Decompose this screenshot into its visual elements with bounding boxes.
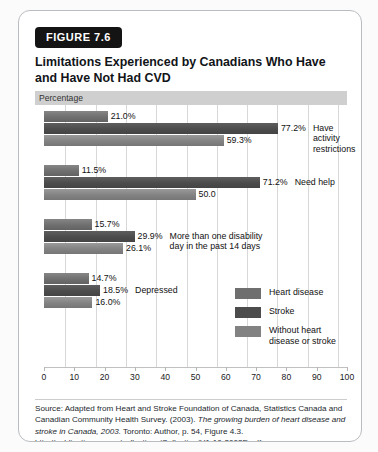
bar-value-label: 29.9% [138,231,163,242]
legend-swatch-stroke [235,307,261,318]
bar-value-label: 16.0% [95,297,120,308]
bar-2-1 [44,189,196,200]
bar-value-label: 15.7% [95,219,120,230]
legend-item: Stroke [235,306,347,318]
x-tick-label: 10 [70,372,80,382]
bar-0-0 [44,111,108,122]
source-divider [35,399,347,400]
bar-2-2 [44,243,123,254]
bar-1-2 [44,231,135,242]
x-tick-label: 100 [340,372,354,382]
x-tick-label: 50 [191,372,201,382]
bar-value-label: 26.1% [126,243,151,254]
axis-header-label: Percentage [39,91,83,105]
x-tick-label: 60 [221,372,231,382]
category-label: More than one disability day in the past… [170,231,263,252]
x-tick [165,367,166,371]
x-tick [105,367,106,371]
x-tick [196,367,197,371]
bar-2-3 [44,297,92,308]
legend-swatch-heart-disease [235,288,261,299]
figure-page: FIGURE 7.6 Limitations Experienced by Ca… [0,0,378,452]
category-label: Depressed [135,285,178,295]
bar-0-1 [44,165,79,176]
figure-number-badge: FIGURE 7.6 [35,27,122,48]
bar-value-label: 18.5% [103,285,128,296]
bar-0-2 [44,219,92,230]
legend-label: Without heart disease or stroke [269,325,336,346]
x-tick-label: 70 [251,372,261,382]
bar-2-0 [44,135,224,146]
x-tick-label: 20 [100,372,110,382]
x-tick-label: 0 [42,372,47,382]
x-tick [135,367,136,371]
x-tick [286,367,287,371]
bar-1-3 [44,285,100,296]
chart-legend: Heart disease Stroke Without heart disea… [235,287,347,353]
bar-value-label: 71.2% [263,177,288,188]
x-tick [74,367,75,371]
source-citation: Source: Adapted from Heart and Stroke Fo… [35,403,347,442]
x-tick-label: 80 [282,372,292,382]
bar-1-0 [44,123,278,134]
figure-title: Limitations Experienced by Canadians Who… [35,55,343,87]
x-tick [226,367,227,371]
legend-item: Heart disease [235,287,347,299]
x-tick-label: 40 [160,372,170,382]
chart-plot-area: Percentage 21.0%77.2%Have activity restr… [35,91,347,389]
legend-label: Stroke [269,306,294,317]
bar-value-label: 50.0 [199,189,216,200]
bar-value-label: 11.5% [82,165,106,176]
category-label: Have activity restrictions [313,123,356,154]
legend-item: Without heart disease or stroke [235,325,347,346]
bar-1-1 [44,177,260,188]
x-tick-label: 30 [130,372,140,382]
bar-value-label: 14.7% [92,273,117,284]
legend-swatch-without-heart-disease-or-stroke [235,326,261,337]
x-tick-label: 90 [312,372,322,382]
x-tick [347,367,348,371]
category-label: Need help [295,177,335,187]
bar-value-label: 21.0% [111,111,136,122]
x-tick [317,367,318,371]
legend-label: Heart disease [269,287,323,298]
figure-card: FIGURE 7.6 Limitations Experienced by Ca… [18,10,362,442]
x-tick [44,367,45,371]
bar-value-label: 77.2% [281,123,306,134]
bar-value-label: 59.3% [227,135,252,146]
bar-0-3 [44,273,89,284]
x-tick [256,367,257,371]
